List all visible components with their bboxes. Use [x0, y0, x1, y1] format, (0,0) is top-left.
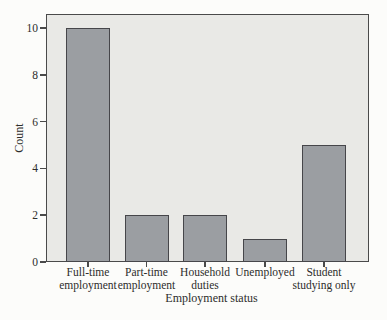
- x-tick-label-line: Student: [269, 266, 379, 279]
- y-tick-mark: [40, 261, 46, 263]
- y-tick-mark: [40, 74, 46, 76]
- y-axis-title: Count: [12, 88, 26, 188]
- y-tick-mark: [40, 214, 46, 216]
- x-tick-label: Studentstudying only: [269, 266, 379, 292]
- bar: [243, 239, 287, 262]
- y-tick-mark: [40, 168, 46, 170]
- bar: [302, 145, 346, 262]
- y-tick-mark: [40, 121, 46, 123]
- axes-layer: 0246810Full-timeemploymentPart-timeemplo…: [0, 0, 387, 320]
- y-tick-label: 8: [8, 68, 38, 82]
- bar: [183, 215, 227, 262]
- y-tick-label: 10: [8, 21, 38, 35]
- bar-chart-figure: 0246810Full-timeemploymentPart-timeemplo…: [0, 0, 387, 320]
- y-tick-mark: [40, 27, 46, 29]
- x-axis-title: Employment status: [50, 291, 373, 305]
- bar: [66, 28, 110, 262]
- bar: [125, 215, 169, 262]
- y-tick-label: 2: [8, 208, 38, 222]
